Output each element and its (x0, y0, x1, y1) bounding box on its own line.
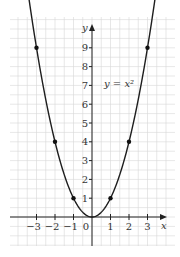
x-tick-label: 1 (107, 221, 113, 232)
y-tick-label: 7 (82, 80, 88, 91)
parabola-chart: x y −3−2−10123123456789 y = x² (0, 0, 180, 257)
data-point (34, 46, 38, 50)
x-tick-label: −1 (63, 221, 78, 232)
y-tick-label: 4 (82, 136, 88, 147)
x-tick-label: 0 (83, 221, 89, 232)
data-point (108, 196, 112, 200)
data-point (53, 140, 57, 144)
y-tick-label: 1 (82, 193, 88, 204)
ticks: −3−2−10123123456789 (26, 42, 151, 232)
y-tick-label: 3 (82, 155, 88, 166)
y-tick-label: 2 (82, 174, 88, 185)
axes: x y (10, 22, 167, 246)
x-tick-label: −2 (45, 221, 60, 232)
curve-label: y = x² (103, 78, 134, 89)
y-tick-label: 5 (82, 118, 88, 129)
y-tick-label: 6 (82, 99, 88, 110)
data-point (71, 196, 75, 200)
data-point (127, 140, 131, 144)
x-axis-label: x (161, 220, 167, 231)
y-axis-arrow-icon (89, 24, 95, 31)
data-point (145, 46, 149, 50)
y-tick-label: 8 (82, 61, 88, 72)
x-tick-label: −3 (26, 221, 41, 232)
y-axis-label: y (81, 22, 88, 33)
y-tick-label: 9 (82, 42, 88, 53)
x-tick-label: 3 (144, 221, 150, 232)
x-tick-label: 2 (126, 221, 132, 232)
